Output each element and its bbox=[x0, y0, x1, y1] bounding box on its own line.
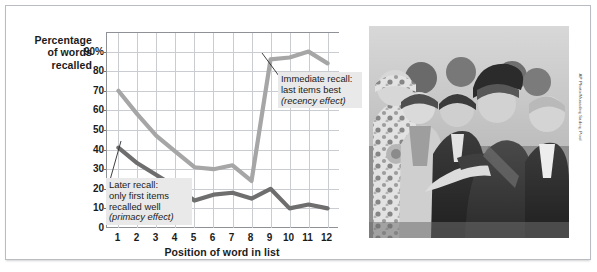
y-tick-label: 60 bbox=[70, 104, 104, 115]
y-axis-tick-labels: 0102030405060708090% bbox=[64, 32, 104, 228]
later-callout-line-4: (primacy effect) bbox=[109, 212, 189, 223]
later-callout-line-2: only first items bbox=[109, 191, 189, 202]
immediate-recall-callout: Immediate recall: last items best (recen… bbox=[278, 72, 362, 108]
press-photograph bbox=[369, 26, 569, 238]
x-tick-label: 11 bbox=[299, 232, 317, 243]
y-tick-label: 30 bbox=[70, 163, 104, 174]
y-tick-label: 70 bbox=[70, 85, 104, 96]
x-tick-label: 1 bbox=[108, 232, 126, 243]
x-tick-label: 4 bbox=[165, 232, 183, 243]
x-tick-label: 10 bbox=[280, 232, 298, 243]
photo-credit-text: AP Photo/Musadeq Sadeq, Pool bbox=[578, 74, 583, 184]
y-tick-label: 10 bbox=[70, 202, 104, 213]
photo-panel: AP Photo/Musadeq Sadeq, Pool bbox=[369, 26, 585, 238]
later-recall-callout: Later recall: only first items recalled … bbox=[106, 178, 192, 225]
immediate-callout-line-3: (recency effect) bbox=[281, 96, 359, 107]
y-tick-label: 40 bbox=[70, 144, 104, 155]
serial-position-figure: Percentage of words recalled 01020304050… bbox=[0, 0, 597, 272]
x-tick-label: 6 bbox=[203, 232, 221, 243]
x-tick-label: 5 bbox=[184, 232, 202, 243]
y-tick-label: 80 bbox=[70, 65, 104, 76]
photo-illustration bbox=[369, 26, 569, 238]
x-tick-label: 8 bbox=[242, 232, 260, 243]
x-tick-label: 7 bbox=[223, 232, 241, 243]
serial-position-chart: Percentage of words recalled 01020304050… bbox=[6, 6, 356, 259]
x-tick-label: 9 bbox=[261, 232, 279, 243]
photo-credit: AP Photo/Musadeq Sadeq, Pool bbox=[569, 26, 585, 238]
y-tick-label: 0 bbox=[70, 222, 104, 233]
callout-leader-line bbox=[110, 141, 121, 180]
y-tick-label: 90% bbox=[70, 46, 104, 57]
series-line bbox=[118, 52, 327, 181]
x-tick-label: 3 bbox=[146, 232, 164, 243]
x-axis-tick-labels: 123456789101112 bbox=[106, 232, 338, 246]
x-axis-title: Position of word in list bbox=[106, 246, 338, 258]
x-tick-label: 12 bbox=[318, 232, 336, 243]
x-tick-label: 2 bbox=[127, 232, 145, 243]
y-tick-label: 50 bbox=[70, 124, 104, 135]
y-tick-label: 20 bbox=[70, 183, 104, 194]
